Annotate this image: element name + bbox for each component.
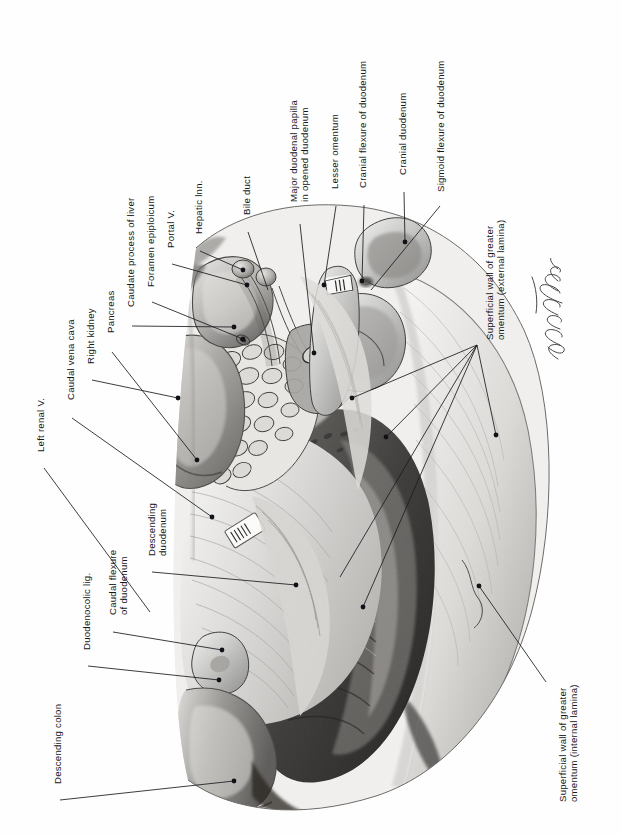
artist-signature bbox=[523, 258, 581, 370]
label-hepatic-lnn: Hepatic lnn. bbox=[194, 180, 205, 234]
label-caudate-process-liver: Caudate process of liver bbox=[126, 198, 137, 307]
label-caudal-flexure: Caudal flexure of duodenum bbox=[107, 550, 130, 615]
label-superficial-wall-internal: Superficial wall of greater omentum (int… bbox=[557, 684, 580, 802]
label-pancreas: Pancreas bbox=[106, 290, 117, 333]
label-descending-colon: Descending colon bbox=[53, 704, 64, 784]
label-superficial-wall-external: Superficial wall of greater omentum (ext… bbox=[484, 220, 507, 340]
label-descending-duodenum: Descending duodenum bbox=[146, 503, 169, 556]
signature-strokes bbox=[523, 258, 581, 370]
label-caudal-vena-cava: Caudal vena cava bbox=[66, 319, 77, 400]
label-foramen-epiploicum: Foramen epiploicum bbox=[146, 196, 157, 287]
label-duodenocolic-lig: Duodenocolic lig. bbox=[82, 573, 93, 650]
label-sigmoid-flexure: Sigmoid flexure of duodenum bbox=[436, 60, 447, 192]
label-left-renal-v: Left renal V. bbox=[36, 398, 47, 452]
label-major-duodenal-papilla: Major duodenal papilla in opened duodenu… bbox=[288, 100, 311, 202]
label-lesser-omentum: Lesser omentum bbox=[330, 114, 341, 189]
label-right-kidney: Right kidney bbox=[86, 308, 97, 364]
illustration-page: Left renal V.Caudal vena cavaRight kidne… bbox=[0, 0, 621, 835]
label-cranial-flexure: Cranial flexure of duodenum bbox=[358, 61, 369, 188]
label-portal-v: Portal V. bbox=[166, 210, 177, 248]
label-cranial-duodenum: Cranial duodenum bbox=[398, 93, 409, 175]
label-bile-duct: Bile duct bbox=[242, 176, 253, 215]
